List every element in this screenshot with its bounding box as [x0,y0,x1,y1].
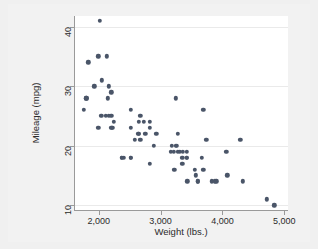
scatter-point [143,132,147,136]
x-tick-label: 2,000 [87,216,110,226]
scatter-point [99,114,103,118]
gridline-y-20 [74,146,288,147]
x-tick-label: 3,000 [149,216,172,226]
x-tick-mark-5000 [284,211,285,215]
chart-figure: 10203040 2,0003,0004,0005,000 Mileage (m… [0,0,318,249]
scatter-point [138,114,142,118]
x-tick-mark-2000 [99,211,100,215]
scatter-point [200,155,204,159]
x-axis-title: Weight (lbs.) [154,226,207,237]
scatter-point [154,132,158,136]
scatter-point [92,84,96,88]
scatter-point [100,78,104,82]
scatter-point [148,120,152,124]
scatter-point [201,167,205,171]
scatter-point [204,138,208,142]
scatter-point [82,108,86,112]
scatter-point [152,144,156,148]
x-axis-line [74,210,288,211]
scatter-point [272,203,276,207]
scatter-point [138,138,142,142]
x-tick-mark-4000 [222,211,223,215]
y-tick-label: 10 [63,205,73,215]
scatter-point [265,197,269,201]
scatter-point [148,161,152,165]
scatter-point [185,179,189,183]
scatter-point [195,179,199,183]
scatter-point [129,155,133,159]
scatter-point [170,144,174,148]
scatter-point [96,54,100,58]
scatter-point [105,54,109,58]
plot-region [74,16,288,210]
scatter-point [194,173,198,177]
scatter-point [86,60,90,64]
scatter-point [111,120,115,124]
graph-region: 10203040 2,0003,0004,0005,000 Mileage (m… [8,4,310,242]
x-tick-label: 4,000 [211,216,234,226]
scatter-point [224,149,228,153]
scatter-point [106,84,110,88]
scatter-point [129,108,133,112]
y-axis-line [74,16,75,210]
y-tick-label: 40 [63,27,73,37]
scatter-point [174,144,178,148]
scatter-point [184,149,188,153]
scatter-point [84,96,88,100]
scatter-point [148,126,152,130]
scatter-point [172,167,176,171]
scatter-point [132,138,136,142]
scatter-point [241,179,245,183]
y-tick-label: 30 [63,86,73,96]
gridline-y-10 [74,205,288,206]
scatter-point [106,96,110,100]
scatter-point [225,173,229,177]
scatter-point [174,96,178,100]
scatter-point [142,120,146,124]
scatter-point [176,132,180,136]
scatter-point [129,126,133,130]
gridline-y-40 [74,27,288,28]
scatter-point [98,19,102,23]
scatter-point [201,108,205,112]
scatter-point [192,167,196,171]
y-axis-title: Mileage (mpg) [30,83,41,144]
scatter-point [238,138,242,142]
x-tick-label: 5,000 [273,216,296,226]
scatter-point [137,120,141,124]
scatter-point [96,126,100,130]
scatter-point [109,90,113,94]
scatter-point [137,132,141,136]
scatter-point [180,161,184,165]
x-tick-mark-3000 [161,211,162,215]
y-tick-label: 20 [63,146,73,156]
scatter-point [184,155,188,159]
